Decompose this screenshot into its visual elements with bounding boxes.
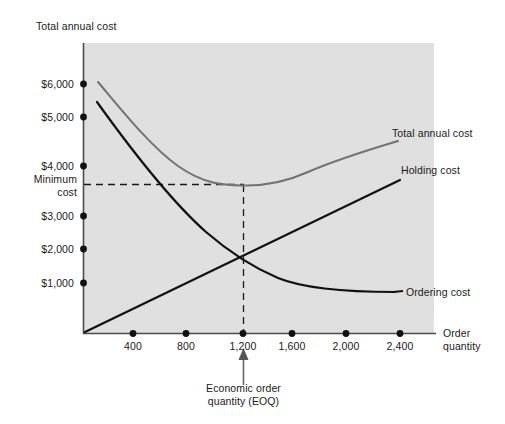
y-tick-dot-5000 <box>80 114 87 121</box>
minimum-cost-label-line2: cost <box>0 186 77 198</box>
x-tick-dot-400 <box>130 330 137 337</box>
eoq-chart-figure: Total annual cost $6,000 $5,000 $4,000 $… <box>0 0 505 424</box>
y-tick-dot-3000 <box>80 213 87 220</box>
y-tick-label-6000: $6,000 <box>0 78 74 91</box>
y-tick-label-3000: $3,000 <box>0 210 74 223</box>
y-tick-label-5000: $5,000 <box>0 111 74 124</box>
y-tick-label-2000: $2,000 <box>0 243 74 256</box>
x-tick-dot-2000 <box>343 330 350 337</box>
y-tick-dot-1000 <box>80 280 87 287</box>
minimum-cost-label-line1: Minimum <box>0 173 77 185</box>
x-tick-dot-1600 <box>289 330 296 337</box>
x-tick-label-1600: 1,600 <box>267 340 317 353</box>
chart-canvas <box>0 0 505 424</box>
x-tick-dot-2400 <box>397 330 404 337</box>
x-tick-label-2400: 2,400 <box>375 340 425 353</box>
eoq-note-line1: Economic order <box>178 382 309 395</box>
x-tick-label-400: 400 <box>108 340 158 353</box>
y-tick-label-1000: $1,000 <box>0 277 74 290</box>
y-axis-title: Total annual cost <box>36 20 117 33</box>
series-label-holding-cost: Holding cost <box>401 164 460 177</box>
x-tick-label-2000: 2,000 <box>321 340 371 353</box>
ordering-cost-leader-line <box>393 291 403 292</box>
eoq-note-line2: quantity (EOQ) <box>178 395 309 408</box>
series-label-total-annual-cost: Total annual cost <box>392 127 473 140</box>
y-tick-label-4000: $4,000 <box>0 160 74 173</box>
x-axis-title-line2: quantity <box>443 340 481 353</box>
series-label-ordering-cost: Ordering cost <box>406 286 470 299</box>
y-tick-dot-6000 <box>80 81 87 88</box>
x-tick-dot-800 <box>183 330 190 337</box>
x-tick-label-1200: 1,200 <box>218 340 268 353</box>
eoq-arrow-icon <box>239 348 249 385</box>
x-tick-label-800: 800 <box>161 340 211 353</box>
y-tick-dot-2000 <box>80 246 87 253</box>
y-tick-dot-4000 <box>80 163 87 170</box>
x-axis-title-line1: Order <box>443 327 470 340</box>
